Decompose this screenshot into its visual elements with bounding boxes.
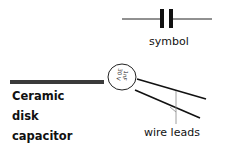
symbol-label: symbol <box>149 35 189 48</box>
wire-leads-icon <box>135 79 206 118</box>
title-bar <box>10 80 104 84</box>
title-line-2: disk <box>12 106 72 126</box>
title-line-1: Ceramic <box>12 86 72 106</box>
ceramic-disk-icon: 1nF 30 V <box>108 64 136 90</box>
capacitor-symbol-icon <box>122 9 212 28</box>
title-line-3: capacitor <box>12 126 72 145</box>
wire-leads-label: wire leads <box>144 126 200 139</box>
component-title: Ceramic disk capacitor <box>12 86 72 145</box>
